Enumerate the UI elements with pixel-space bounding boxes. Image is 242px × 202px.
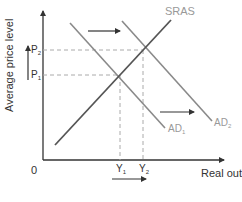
sras-label: SRAS [165, 6, 195, 16]
p1-label: P1 [31, 70, 41, 83]
y1-label: Y1 [116, 164, 126, 177]
y-axis-label: Average price level [3, 19, 15, 112]
ad1-label: AD1 [168, 124, 185, 137]
origin-label: 0 [31, 165, 37, 175]
x-axis-label: Real output (Y) [201, 168, 242, 178]
sras-curve [55, 20, 171, 145]
y2-label: Y2 [139, 164, 149, 177]
ad2-curve [122, 21, 212, 121]
p2-label: P2 [31, 45, 41, 58]
ad2-label: AD2 [214, 118, 231, 131]
